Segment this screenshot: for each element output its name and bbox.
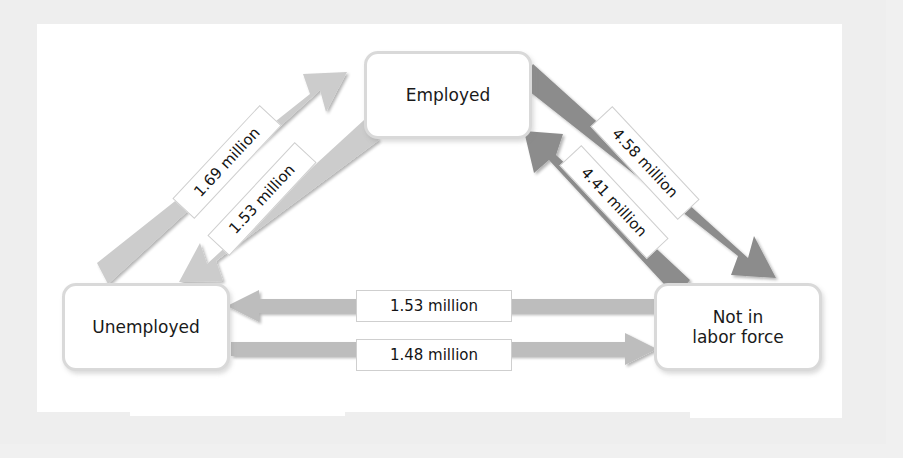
node-nilf-label-line2: labor force [692, 327, 784, 347]
node-nilf-label-line1: Not in [713, 307, 764, 327]
node-unemployed-label: Unemployed [92, 317, 199, 337]
diagram-page: Employed Unemployed Not in labor force 1… [0, 0, 903, 458]
node-employed-label: Employed [406, 85, 491, 105]
edge-label-value: 1.48 million [390, 346, 478, 364]
node-unemployed[interactable]: Unemployed [62, 283, 230, 371]
node-not-in-labor-force-label: Not in labor force [692, 307, 784, 347]
edge-label-nilf-to-unemployed: 1.53 million [356, 290, 512, 322]
node-employed[interactable]: Employed [364, 51, 532, 139]
edge-label-value: 1.53 million [390, 297, 478, 315]
edge-label-unemployed-to-nilf: 1.48 million [356, 339, 512, 371]
node-not-in-labor-force[interactable]: Not in labor force [654, 283, 822, 371]
